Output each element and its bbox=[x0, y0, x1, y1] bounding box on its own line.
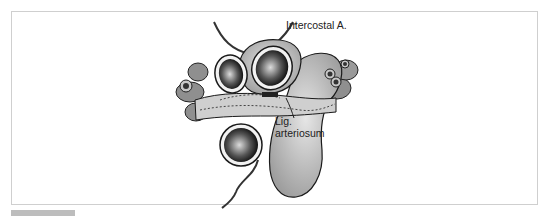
label-lig-line1: Lig. bbox=[275, 115, 325, 127]
label-intercostal-artery: Intercostal A. bbox=[286, 19, 347, 31]
label-lig-line2: arteriosum bbox=[275, 127, 325, 139]
vessel-lumen-lower bbox=[224, 128, 258, 162]
descending-strand bbox=[222, 160, 258, 208]
caption-bar bbox=[11, 210, 75, 216]
aortic-anatomy-illustration bbox=[0, 0, 550, 216]
label-ligamentum-arteriosum: Lig. arteriosum bbox=[275, 115, 325, 139]
intercostal-strand-left bbox=[214, 22, 250, 54]
